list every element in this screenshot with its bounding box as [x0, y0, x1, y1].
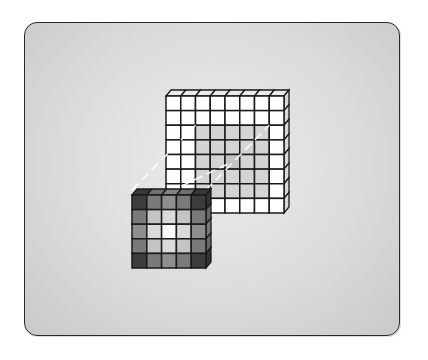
kernel-grid — [132, 189, 211, 268]
convolution-diagram — [0, 0, 428, 360]
